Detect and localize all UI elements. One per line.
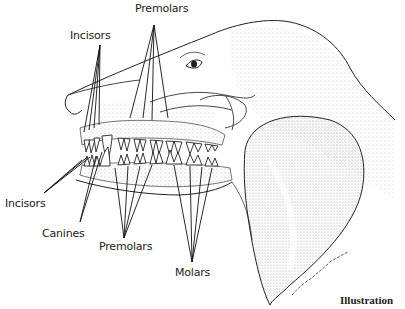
label-premolars-upper: Premolars [135,2,188,15]
label-incisors-lower: Incisors [5,197,45,210]
label-premolars-lower: Premolars [99,240,152,253]
label-molars: Molars [175,266,210,279]
eye-icon [180,52,205,68]
ear [244,116,364,305]
illustration-caption: Illustration [340,294,393,306]
dog-teeth-diagram: Premolars Incisors Incisors Canines Prem… [0,0,405,309]
label-incisors-upper: Incisors [70,29,110,42]
dog-head-illustration [0,0,405,309]
label-canines: Canines [42,227,85,240]
